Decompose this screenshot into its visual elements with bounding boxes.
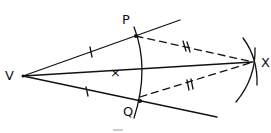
center-mark: × bbox=[110, 65, 121, 80]
dashed-px bbox=[136, 36, 253, 62]
point-v bbox=[22, 75, 25, 78]
bisector-diagram: × V P Q X bbox=[0, 0, 271, 133]
arc-pq bbox=[134, 27, 142, 118]
point-q bbox=[138, 99, 142, 103]
tick-vq bbox=[86, 87, 88, 96]
label-p: P bbox=[122, 12, 130, 27]
label-q: Q bbox=[123, 104, 133, 119]
label-v: V bbox=[5, 68, 14, 83]
label-x: X bbox=[261, 55, 270, 70]
caption-fragment bbox=[113, 129, 123, 131]
point-p bbox=[134, 34, 138, 38]
